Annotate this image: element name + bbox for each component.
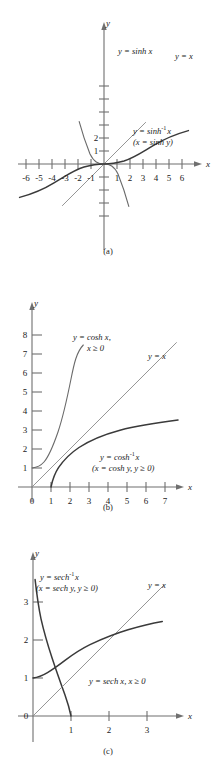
svg-text:y: y <box>33 298 38 308</box>
svg-text:y: y <box>105 18 110 28</box>
svg-text:5: 5 <box>23 387 28 397</box>
label-sech-c: y = sech x, x ≥ 0 <box>89 676 146 687</box>
svg-text:8: 8 <box>23 330 28 340</box>
panel-b-cosh: 0 1 2 3 4 5 6 7 1 2 3 4 5 6 7 8 y x ( <box>0 262 217 512</box>
svg-text:2: 2 <box>94 133 99 143</box>
svg-text:-3: -3 <box>61 173 69 183</box>
svg-text:1: 1 <box>115 173 120 183</box>
svg-text:-2: -2 <box>74 173 82 183</box>
label-identity-a: y = x <box>175 51 193 62</box>
panel-a-sinh: -6 -5 -4 -3 -2 -1 1 2 3 4 5 6 1 2 y x (a… <box>0 0 217 262</box>
svg-text:1: 1 <box>94 146 99 156</box>
panel-b-caption: (b) <box>103 502 113 512</box>
svg-text:7: 7 <box>163 496 168 506</box>
svg-text:-5: -5 <box>35 173 43 183</box>
label-arcsinh-a: y = sinh-1 x (x = sinh y) <box>133 122 173 148</box>
panel-b-plot: 0 1 2 3 4 5 6 7 1 2 3 4 5 6 7 8 y x ( <box>0 262 217 512</box>
svg-text:1: 1 <box>69 725 74 735</box>
label-arccosh-b: y = cosh-1 x (x = cosh y, y ≥ 0) <box>100 448 154 474</box>
panel-b-y-ticks <box>32 335 42 468</box>
svg-text:x: x <box>187 711 192 721</box>
svg-text:2: 2 <box>24 635 29 645</box>
svg-text:4: 4 <box>23 406 28 416</box>
label-identity-c: y = x <box>148 580 166 591</box>
svg-text:0: 0 <box>30 496 35 506</box>
svg-text:5: 5 <box>167 173 172 183</box>
svg-text:0: 0 <box>24 711 29 721</box>
svg-text:2: 2 <box>128 173 133 183</box>
svg-text:2: 2 <box>107 725 112 735</box>
svg-text:7: 7 <box>23 349 28 359</box>
svg-text:4: 4 <box>154 173 159 183</box>
label-arcsech-c: y = sech-1 x (x = sech y, y ≥ 0) <box>40 568 98 594</box>
curve-sech <box>33 622 162 679</box>
svg-text:6: 6 <box>23 368 28 378</box>
svg-text:2: 2 <box>68 496 73 506</box>
svg-text:1: 1 <box>23 463 28 473</box>
svg-text:1: 1 <box>49 496 54 506</box>
panel-a-plot: -6 -5 -4 -3 -2 -1 1 2 3 4 5 6 1 2 y x (a… <box>0 0 217 262</box>
svg-text:3: 3 <box>141 173 146 183</box>
svg-text:-6: -6 <box>22 173 30 183</box>
label-cosh-b: y = cosh x, x ≥ 0 <box>73 332 111 354</box>
label-identity-b: y = x <box>148 351 166 362</box>
panel-b-tick-labels: 0 1 2 3 4 5 6 7 1 2 3 4 5 6 7 8 <box>23 330 168 506</box>
svg-text:6: 6 <box>180 173 185 183</box>
svg-text:x: x <box>187 482 192 492</box>
svg-text:1: 1 <box>24 673 29 683</box>
panel-c-y-ticks <box>33 602 43 678</box>
svg-text:2: 2 <box>23 444 28 454</box>
svg-text:-1: -1 <box>87 173 95 183</box>
svg-text:x: x <box>205 159 210 169</box>
svg-text:-4: -4 <box>48 173 56 183</box>
svg-text:3: 3 <box>145 725 150 735</box>
panel-c-plot: 0 1 2 3 1 2 3 y x (c) <box>0 512 217 763</box>
curve-identity-c <box>33 585 164 716</box>
svg-text:5: 5 <box>125 496 130 506</box>
svg-text:y: y <box>34 548 39 558</box>
svg-text:3: 3 <box>24 597 29 607</box>
label-sinh-a: y = sinh x <box>118 46 152 57</box>
svg-text:3: 3 <box>23 425 28 435</box>
svg-text:6: 6 <box>144 496 149 506</box>
panel-a-caption: (a) <box>103 246 113 256</box>
panel-c-sech: 0 1 2 3 1 2 3 y x (c) y = sech-1 x (x = … <box>0 512 217 763</box>
svg-text:3: 3 <box>87 496 92 506</box>
panel-c-caption: (c) <box>103 746 113 756</box>
figure-container: -6 -5 -4 -3 -2 -1 1 2 3 4 5 6 1 2 y x (a… <box>0 0 217 763</box>
